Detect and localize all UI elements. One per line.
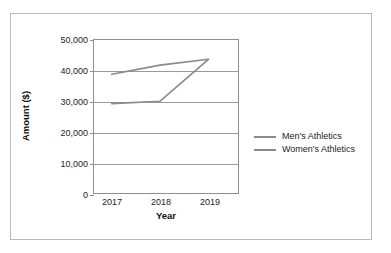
legend-item-label: Women's Athletics xyxy=(282,145,355,154)
legend-item-label: Men's Athletics xyxy=(282,132,342,141)
legend-item[interactable]: Women's Athletics xyxy=(254,143,355,156)
data-lines xyxy=(94,40,238,193)
chart-legend: Men's AthleticsWomen's Athletics xyxy=(254,130,355,156)
y-axis-tick-label: 30,000 xyxy=(60,98,88,107)
y-axis-tick-label: 20,000 xyxy=(60,129,88,138)
x-axis-tick-label: 2018 xyxy=(151,198,171,207)
x-axis-title: Year xyxy=(93,210,239,221)
y-axis-title: Amount ($) xyxy=(20,91,31,141)
x-axis-tick-label: 2019 xyxy=(200,198,220,207)
y-axis-tick xyxy=(90,195,94,196)
legend-color-swatch xyxy=(254,149,276,151)
legend-color-swatch xyxy=(254,136,276,138)
plot-area: 010,00020,00030,00040,00050,000 20172018… xyxy=(93,39,239,194)
x-axis-tick-label: 2017 xyxy=(102,198,122,207)
chart-figure: Amount ($) Year 010,00020,00030,00040,00… xyxy=(10,13,372,240)
y-axis-tick-label: 10,000 xyxy=(60,160,88,169)
data-line xyxy=(112,59,209,103)
y-axis-tick-label: 40,000 xyxy=(60,67,88,76)
legend-item[interactable]: Men's Athletics xyxy=(254,130,355,143)
y-axis-tick-label: 0 xyxy=(83,191,88,200)
y-axis-tick-label: 50,000 xyxy=(60,36,88,45)
